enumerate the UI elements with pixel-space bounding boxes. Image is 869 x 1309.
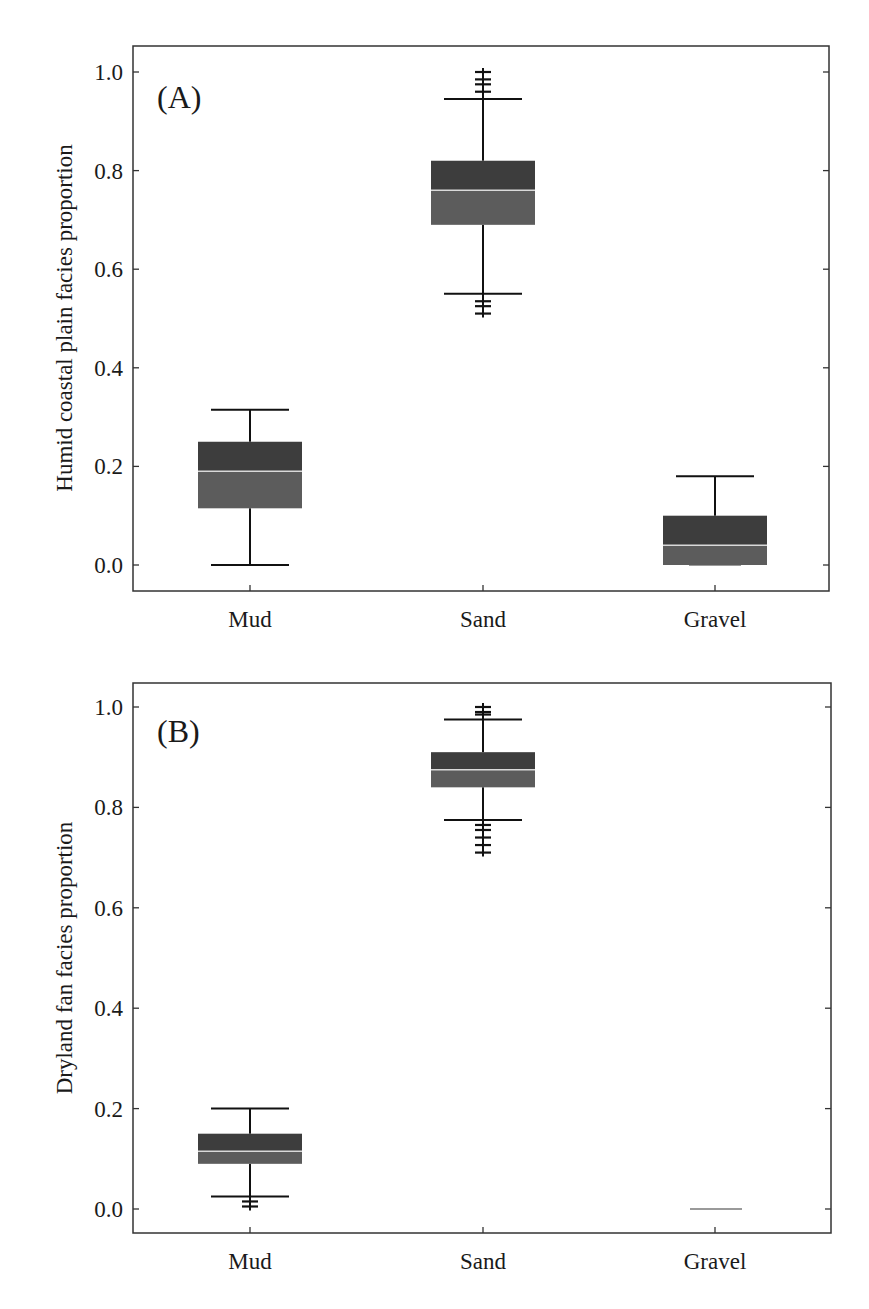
x-category-label: Mud (228, 1249, 272, 1274)
box-upper-quartile (663, 516, 767, 546)
box-upper-quartile (198, 442, 302, 472)
y-tick-label: 1.0 (94, 60, 123, 85)
box-upper-quartile (431, 752, 535, 770)
y-tick-label: 0.8 (94, 795, 123, 820)
box-lower-quartile (431, 190, 535, 225)
y-tick-label: 0.4 (94, 356, 123, 381)
panel-a: 0.00.20.40.60.81.0MudSandGravelHumid coa… (52, 46, 829, 632)
y-tick-label: 0.8 (94, 159, 123, 184)
box-sand (431, 68, 535, 318)
y-tick-label: 1.0 (94, 695, 123, 720)
box-lower-quartile (431, 770, 535, 788)
y-axis-title: Humid coastal plain facies proportion (52, 144, 77, 492)
x-category-label: Mud (228, 607, 272, 632)
y-tick-label: 0.4 (94, 996, 123, 1021)
box-sand (431, 703, 535, 857)
panel-b: 0.00.20.40.60.81.0MudSandGravelDryland f… (52, 683, 831, 1274)
box-lower-quartile (663, 545, 767, 565)
y-tick-label: 0.2 (94, 1097, 123, 1122)
box-gravel (663, 476, 767, 565)
figure: 0.00.20.40.60.81.0MudSandGravelHumid coa… (0, 0, 869, 1309)
y-tick-label: 0.0 (94, 553, 123, 578)
panel-label: (A) (157, 79, 201, 115)
box-lower-quartile (198, 1151, 302, 1164)
plot-frame (133, 46, 829, 591)
y-tick-label: 0.2 (94, 454, 123, 479)
x-category-label: Sand (460, 607, 507, 632)
box-upper-quartile (431, 161, 535, 191)
panel-label: (B) (157, 713, 200, 749)
x-category-label: Sand (460, 1249, 507, 1274)
box-mud (198, 410, 302, 565)
y-axis-title: Dryland fan facies proportion (52, 821, 77, 1094)
y-tick-label: 0.6 (94, 257, 123, 282)
y-tick-label: 0.6 (94, 896, 123, 921)
box-upper-quartile (198, 1134, 302, 1152)
box-lower-quartile (198, 471, 302, 508)
y-tick-label: 0.0 (94, 1197, 123, 1222)
box-mud (198, 1109, 302, 1211)
x-category-label: Gravel (684, 607, 747, 632)
x-category-label: Gravel (684, 1249, 747, 1274)
